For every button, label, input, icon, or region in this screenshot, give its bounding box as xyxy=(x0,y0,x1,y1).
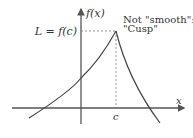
annotation-cusp: "Cusp" xyxy=(123,23,158,34)
c-point-label: c xyxy=(113,111,119,122)
peak-value-label: L = f(c) xyxy=(34,25,77,38)
y-axis-label: f(x) xyxy=(85,7,105,20)
right-curve xyxy=(116,31,160,123)
x-axis-label: x xyxy=(176,95,182,106)
left-curve xyxy=(29,31,116,118)
cusp-diagram: f(x) x L = f(c) c Not "smooth": "Cusp" xyxy=(0,0,193,138)
